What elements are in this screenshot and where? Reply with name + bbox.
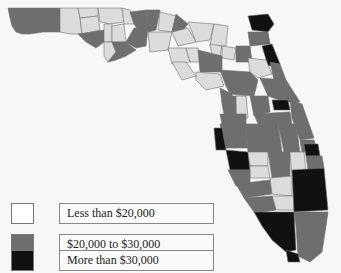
legend-swatch-low — [11, 203, 34, 224]
county-leon — [130, 10, 148, 30]
legend-label-high: More than $30,000 — [59, 250, 214, 271]
county-jackson — [98, 8, 124, 24]
county-palm-beach — [292, 168, 328, 212]
legend-item-high: More than $30,000 — [10, 250, 205, 273]
county-nassau — [248, 14, 274, 32]
county-broward — [294, 212, 328, 226]
legend-swatch-high — [11, 250, 34, 271]
county-seminole — [272, 100, 290, 110]
county-polk — [246, 124, 282, 152]
county-manatee — [226, 150, 250, 170]
county-duval — [248, 32, 270, 46]
county-pasco — [220, 114, 246, 124]
county-dixie — [172, 62, 196, 80]
florida-county-map — [0, 0, 341, 273]
county-escambia — [8, 8, 30, 34]
county-levy — [196, 72, 224, 90]
county-miami-dade — [296, 226, 326, 262]
legend-item-low: Less than $20,000 — [10, 203, 205, 227]
county-orange — [254, 112, 292, 124]
county-hernando — [222, 104, 236, 114]
county-bradford — [222, 46, 236, 60]
county-okaloosa — [43, 8, 60, 32]
county-st-lucie — [304, 144, 320, 156]
county-lee — [244, 196, 276, 212]
county-hardee — [248, 152, 268, 166]
legend-label-low: Less than $20,000 — [59, 203, 214, 224]
county-flagler — [270, 62, 286, 80]
county-calhoun — [104, 24, 112, 42]
county-collier — [254, 212, 296, 252]
county-desoto — [250, 166, 270, 178]
county-glades — [270, 176, 292, 196]
county-highlands — [268, 152, 290, 178]
county-santa-rosa — [30, 8, 43, 34]
county-liberty — [112, 24, 126, 42]
